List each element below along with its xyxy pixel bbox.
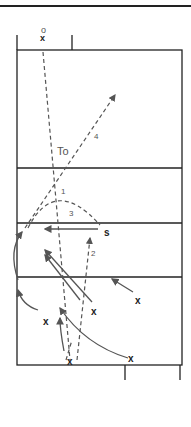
path-3-label: 3 bbox=[69, 209, 74, 218]
serve-path bbox=[43, 52, 70, 360]
path-4-label: 4 bbox=[94, 132, 99, 141]
path-1-label: 1 bbox=[61, 187, 66, 196]
court bbox=[17, 35, 182, 380]
player-marker: x bbox=[128, 353, 134, 364]
player-marker: x bbox=[135, 295, 141, 306]
volleyball-court-diagram: o x To s 1 2 3 4 x x x x x bbox=[0, 0, 191, 427]
to-label: To bbox=[57, 145, 69, 157]
server-x-label: x bbox=[40, 33, 45, 43]
dashed-paths bbox=[25, 52, 115, 360]
path-2-label: 2 bbox=[91, 249, 96, 258]
solid-arrows bbox=[14, 229, 133, 358]
setter-label: s bbox=[104, 227, 110, 238]
player-marker: x bbox=[67, 356, 73, 367]
player-marker: x bbox=[43, 316, 49, 327]
player-marker: x bbox=[91, 306, 97, 317]
path-3 bbox=[28, 201, 100, 228]
